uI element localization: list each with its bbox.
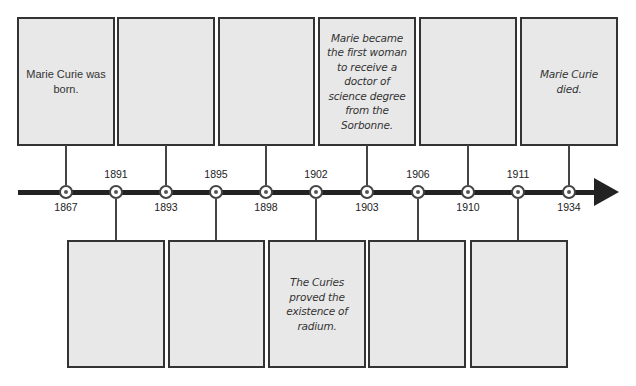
event-box-1895 — [168, 240, 265, 368]
connector-1895 — [215, 199, 217, 241]
connector-1902 — [315, 199, 317, 241]
connector-1898 — [265, 145, 267, 185]
node-1891 — [109, 185, 123, 199]
year-label-1906: 1906 — [398, 168, 438, 180]
year-label-1911: 1911 — [498, 168, 538, 180]
arrow-head-icon — [594, 178, 619, 206]
year-label-1902: 1902 — [296, 168, 336, 180]
event-text-1903: Marie became the first woman to receive … — [320, 31, 414, 133]
connector-1906 — [417, 199, 419, 241]
node-1893 — [159, 185, 173, 199]
year-label-1891: 1891 — [96, 168, 136, 180]
connector-1893 — [165, 145, 167, 185]
node-1902 — [309, 185, 323, 199]
node-1903 — [360, 185, 374, 199]
node-1911 — [511, 185, 525, 199]
event-box-1891 — [67, 240, 165, 368]
node-1910 — [461, 185, 475, 199]
connector-1910 — [467, 145, 469, 185]
connector-1903 — [366, 145, 368, 185]
event-text-1867: Marie Curie was born. — [19, 67, 113, 96]
event-box-1910 — [419, 17, 517, 146]
event-box-1867: Marie Curie was born. — [17, 17, 115, 146]
event-text-1934: Marie Curie died. — [522, 67, 616, 96]
year-label-1867: 1867 — [46, 201, 86, 213]
connector-1867 — [65, 145, 67, 185]
event-box-1906 — [368, 240, 466, 368]
event-box-1903: Marie became the first woman to receive … — [318, 17, 416, 146]
node-1934 — [562, 185, 576, 199]
node-1867 — [59, 185, 73, 199]
year-label-1934: 1934 — [549, 201, 589, 213]
connector-1911 — [517, 199, 519, 241]
event-box-1898 — [218, 17, 315, 146]
connector-1934 — [568, 145, 570, 185]
event-box-1893 — [117, 17, 215, 146]
event-box-1902: The Curies proved the existence of radiu… — [268, 240, 366, 368]
year-label-1903: 1903 — [347, 201, 387, 213]
connector-1891 — [115, 199, 117, 241]
event-box-1911 — [470, 240, 568, 368]
year-label-1898: 1898 — [246, 201, 286, 213]
node-1906 — [411, 185, 425, 199]
year-label-1893: 1893 — [146, 201, 186, 213]
event-text-1902: The Curies proved the existence of radiu… — [270, 275, 364, 333]
node-1898 — [259, 185, 273, 199]
year-label-1895: 1895 — [196, 168, 236, 180]
event-box-1934: Marie Curie died. — [520, 17, 618, 146]
year-label-1910: 1910 — [448, 201, 488, 213]
node-1895 — [209, 185, 223, 199]
